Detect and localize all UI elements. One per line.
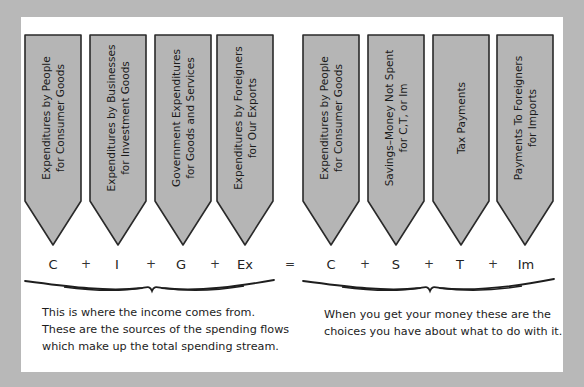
plus-sign: +	[81, 257, 91, 271]
equals-sign: =	[285, 257, 295, 271]
caption-line: choices you have about what to do with i…	[324, 323, 562, 340]
symbol-ex: Ex	[237, 257, 253, 272]
arrow-label-line1: Expenditures by People	[317, 56, 331, 179]
arrow-label-line1: Payments To Foreigners	[511, 55, 525, 179]
arrow-label-line1: Expenditures by People	[39, 56, 53, 179]
arrow-investment-spending: Expenditures by Businesses for Investmen…	[89, 34, 147, 246]
arrow-label-line1: Savings–Money Not Spent	[382, 49, 396, 186]
right-brace-icon	[302, 276, 556, 296]
symbol-c-left: C	[48, 257, 57, 272]
arrow-imports-choice: Payments To Foreigners for Imports	[496, 34, 554, 246]
arrow-consumption-choice: Expenditures by People for Consumer Good…	[302, 34, 360, 246]
symbol-g: G	[176, 257, 186, 272]
arrow-label-line2: for Investment Goods	[118, 44, 132, 191]
arrow-label-line2: for Consumer Goods	[53, 56, 67, 179]
plus-sign: +	[146, 257, 156, 271]
left-brace-icon	[24, 276, 276, 296]
symbol-s: S	[392, 257, 400, 272]
symbol-t: T	[456, 257, 464, 272]
arrow-label-line2: for C,T, or Im	[396, 49, 410, 186]
plus-sign: +	[210, 257, 220, 271]
arrow-savings-choice: Savings–Money Not Spent for C,T, or Im	[367, 34, 425, 246]
arrow-label-line1: Tax Payments	[454, 81, 468, 153]
caption-line: These are the sources of the spending fl…	[42, 321, 289, 338]
arrow-government-spending: Government Expenditures for Goods and Se…	[154, 34, 212, 246]
symbol-i: I	[115, 257, 119, 272]
caption-line: When you get your money these are the	[324, 306, 562, 323]
left-caption: This is where the income comes from. The…	[42, 304, 289, 355]
right-caption: When you get your money these are the ch…	[324, 306, 562, 340]
arrow-label-line2: for Our Exports	[245, 46, 259, 190]
arrow-consumer-spending: Expenditures by People for Consumer Good…	[24, 34, 82, 246]
arrow-label-line2: for Consumer Goods	[331, 56, 345, 179]
arrow-label-line2: for Imports	[525, 55, 539, 179]
plus-sign: +	[360, 257, 370, 271]
arrow-label-line1: Expenditures by Foreigners	[231, 46, 245, 190]
symbol-c-right: C	[326, 257, 335, 272]
symbol-im: Im	[518, 257, 535, 272]
caption-line: which make up the total spending stream.	[42, 338, 289, 355]
caption-line: This is where the income comes from.	[42, 304, 289, 321]
arrow-label-line1: Government Expenditures	[169, 49, 183, 187]
arrow-export-spending: Expenditures by Foreigners for Our Expor…	[216, 34, 274, 246]
plus-sign: +	[424, 257, 434, 271]
arrow-label-line2: for Goods and Services	[183, 49, 197, 187]
arrow-label-line1: Expenditures by Businesses	[104, 44, 118, 191]
plus-sign: +	[488, 257, 498, 271]
arrow-tax-choice: Tax Payments	[432, 34, 490, 246]
